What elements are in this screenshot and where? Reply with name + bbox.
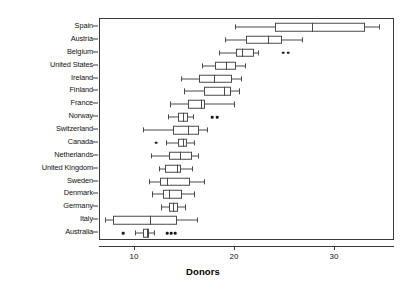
box-iqr [246,36,282,45]
y-axis-label-germany: Germany [63,202,93,210]
median-line [214,74,215,83]
x-axis-line [99,246,394,247]
whisker-cap-low [202,63,203,68]
y-axis-label-france: France [71,99,93,107]
box-iqr [236,49,254,58]
whisker-cap-high [197,217,198,222]
y-axis-tick [93,232,98,233]
whisker-cap-high [194,140,195,145]
outlier-point [170,232,173,235]
box-iqr [163,190,182,199]
median-line [268,36,269,45]
whisker-cap-low [105,217,106,222]
y-axis-label-austria: Austria [71,35,93,43]
whisker-high [205,104,234,105]
whisker-low [166,142,178,143]
x-axis-tick-label: 10 [130,252,139,261]
box-plot-chart: SpainAustriaBelgiumUnited StatesIrelandF… [0,0,406,291]
y-axis-label-norway: Norway [69,112,93,120]
box-iqr [165,164,181,173]
median-line [242,49,243,58]
whisker-low [149,181,160,182]
whisker-cap-high [207,127,208,132]
median-line [147,229,148,238]
whisker-high [187,142,194,143]
whisker-low [235,27,275,28]
whisker-cap-low [181,76,182,81]
y-axis-tick [93,141,98,142]
whisker-high [231,91,239,92]
whisker-low [225,39,246,40]
y-axis-tick [93,180,98,181]
box-iqr [113,216,177,225]
y-axis-label-sweden: Sweden [67,177,93,185]
whisker-cap-high [192,166,193,171]
whisker-high [190,181,204,182]
whisker-cap-low [170,102,171,107]
y-axis-label-united-kingdom: United Kingdom [42,164,93,172]
y-axis-tick [93,26,98,27]
y-axis-label-denmark: Denmark [64,189,93,197]
y-axis-tick [93,193,98,194]
median-line [169,190,170,199]
whisker-cap-high [154,230,155,235]
whisker-cap-low [151,153,152,158]
y-axis-tick [93,206,98,207]
y-axis-label-netherlands: Netherlands [54,151,93,159]
whisker-cap-low [159,166,160,171]
whisker-cap-low [235,24,236,29]
whisker-low [151,155,169,156]
outlier-point [211,116,214,119]
outlier-point [122,232,125,235]
median-line [183,139,184,148]
whisker-cap-high [185,205,186,210]
y-axis-tick [93,129,98,130]
median-line [180,152,181,161]
whisker-cap-high [234,102,235,107]
whisker-low [105,220,113,221]
box-iqr [143,229,149,238]
x-axis-tick [134,246,135,250]
y-axis-tick [93,154,98,155]
box-iqr [204,87,231,96]
median-line [177,164,178,173]
median-line [173,203,174,212]
whisker-low [152,194,163,195]
y-axis-tick [93,77,98,78]
whisker-high [177,220,197,221]
whisker-high [178,207,185,208]
box-iqr [160,177,190,186]
y-axis-tick [93,103,98,104]
y-axis-label-spain: Spain [75,22,93,30]
whisker-low [135,233,143,234]
whisker-cap-low [152,192,153,197]
x-axis-title: Donors [0,266,406,277]
whisker-cap-high [258,50,259,55]
whisker-cap-low [149,179,150,184]
y-axis-category-labels: SpainAustriaBelgiumUnited StatesIrelandF… [0,0,93,291]
y-axis-tick [93,90,98,91]
y-axis-tick [93,51,98,52]
x-axis-tick [334,246,335,250]
whisker-cap-low [219,50,220,55]
whisker-cap-high [204,179,205,184]
y-axis-label-ireland: Ireland [71,74,93,82]
box-iqr [173,126,199,135]
y-axis-tick [93,116,98,117]
median-line [183,113,184,122]
y-axis-label-canada: Canada [68,138,93,146]
median-line [201,100,202,109]
outlier-point [166,232,169,235]
whisker-high [181,168,192,169]
whisker-high [365,27,379,28]
x-axis-tick-label: 20 [230,252,239,261]
whisker-low [161,207,169,208]
whisker-cap-high [239,89,240,94]
whisker-high [282,39,302,40]
whisker-cap-high [193,114,194,119]
whisker-cap-low [143,127,144,132]
whisker-low [202,65,215,66]
whisker-high [182,194,194,195]
median-line [226,61,227,70]
median-line [312,23,313,32]
